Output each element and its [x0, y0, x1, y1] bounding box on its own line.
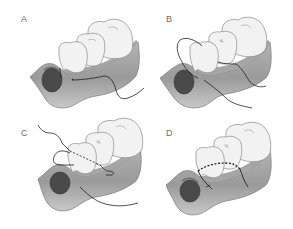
panel-d: D: [146, 115, 292, 229]
panel-label-d: D: [166, 129, 173, 138]
panel-c: C: [0, 115, 146, 229]
panel-label-b: B: [166, 15, 172, 24]
panel-label-a: A: [21, 15, 27, 24]
extraction-socket: [180, 180, 200, 202]
suture-technique-figure: A B: [0, 0, 293, 229]
panel-label-c: C: [21, 129, 28, 138]
extraction-socket: [50, 172, 70, 194]
panel-a: A: [0, 0, 146, 114]
panel-b: B: [146, 0, 292, 114]
